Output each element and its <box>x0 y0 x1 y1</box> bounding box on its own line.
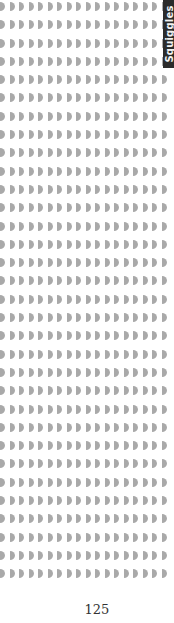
half-circle-icon <box>133 459 138 468</box>
half-circle-icon <box>10 39 15 48</box>
pattern-cell <box>27 533 37 543</box>
pattern-cell <box>17 203 27 213</box>
half-circle-icon <box>10 313 15 322</box>
half-circle-icon <box>124 295 129 304</box>
pattern-cell <box>27 459 37 469</box>
pattern-cell <box>74 130 84 140</box>
half-circle-icon <box>38 130 43 139</box>
half-circle-icon <box>162 167 167 176</box>
half-circle-icon <box>10 331 15 340</box>
pattern-cell <box>46 39 56 49</box>
pattern-cell <box>55 368 65 378</box>
half-circle-icon <box>143 258 148 267</box>
pattern-cell <box>84 331 94 341</box>
pattern-cell <box>55 185 65 195</box>
pattern-cell <box>27 240 37 250</box>
half-circle-icon <box>0 551 5 560</box>
half-circle-icon <box>162 185 167 194</box>
pattern-cell <box>84 57 94 67</box>
pattern-cell <box>131 258 141 268</box>
half-circle-icon <box>95 167 100 176</box>
half-circle-icon <box>38 93 43 102</box>
half-circle-icon <box>48 276 53 285</box>
half-circle-icon <box>0 496 5 505</box>
half-circle-icon <box>29 405 34 414</box>
pattern-cell <box>131 441 141 451</box>
pattern-cell <box>46 496 56 506</box>
half-circle-icon <box>162 313 167 322</box>
half-circle-icon <box>19 459 24 468</box>
half-circle-icon <box>124 386 129 395</box>
half-circle-icon <box>19 20 24 29</box>
half-circle-icon <box>86 240 91 249</box>
pattern-cell <box>0 39 8 49</box>
pattern-cell <box>122 20 132 30</box>
half-circle-icon <box>29 2 34 11</box>
half-circle-icon <box>10 368 15 377</box>
half-circle-icon <box>29 75 34 84</box>
pattern-cell <box>65 276 75 286</box>
pattern-cell <box>74 295 84 305</box>
half-circle-icon <box>114 313 119 322</box>
half-circle-icon <box>114 478 119 487</box>
half-circle-icon <box>57 441 62 450</box>
pattern-cell <box>122 222 132 232</box>
pattern-cell <box>65 39 75 49</box>
pattern-cell <box>122 368 132 378</box>
half-circle-icon <box>48 2 53 11</box>
half-circle-icon <box>114 551 119 560</box>
half-circle-icon <box>29 112 34 121</box>
pattern-cell <box>0 459 8 469</box>
pattern-cell <box>131 459 141 469</box>
pattern-cell <box>46 295 56 305</box>
half-circle-icon <box>95 533 100 542</box>
pattern-cell <box>55 386 65 396</box>
pattern-cell <box>65 148 75 158</box>
pattern-cell <box>93 2 103 12</box>
half-circle-icon <box>105 331 110 340</box>
pattern-cell <box>8 459 18 469</box>
pattern-cell <box>150 423 160 433</box>
half-circle-icon <box>48 478 53 487</box>
half-circle-icon <box>48 185 53 194</box>
pattern-cell <box>65 75 75 85</box>
pattern-cell <box>103 148 113 158</box>
pattern-cell <box>103 2 113 12</box>
pattern-cell <box>150 295 160 305</box>
pattern-cell <box>103 459 113 469</box>
half-circle-icon <box>95 405 100 414</box>
half-circle-icon <box>57 2 62 11</box>
pattern-row <box>0 203 174 221</box>
pattern-cell <box>112 57 122 67</box>
pattern-cell <box>141 551 151 561</box>
pattern-cell <box>74 533 84 543</box>
half-circle-icon <box>19 551 24 560</box>
half-circle-icon <box>57 20 62 29</box>
half-circle-icon <box>105 386 110 395</box>
pattern-cell <box>112 276 122 286</box>
pattern-cell <box>8 386 18 396</box>
half-circle-icon <box>133 130 138 139</box>
pattern-cell <box>0 423 8 433</box>
half-circle-icon <box>105 167 110 176</box>
half-circle-icon <box>67 405 72 414</box>
half-circle-icon <box>38 459 43 468</box>
pattern-cell <box>84 441 94 451</box>
half-circle-icon <box>162 203 167 212</box>
half-circle-icon <box>67 185 72 194</box>
pattern-cell <box>65 222 75 232</box>
half-circle-icon <box>19 2 24 11</box>
pattern-cell <box>122 423 132 433</box>
pattern-cell <box>84 276 94 286</box>
pattern-cell <box>55 276 65 286</box>
half-circle-icon <box>29 496 34 505</box>
half-circle-icon <box>124 514 129 523</box>
pattern-cell <box>74 222 84 232</box>
half-circle-icon <box>162 276 167 285</box>
pattern-cell <box>103 258 113 268</box>
half-circle-icon <box>105 423 110 432</box>
half-circle-icon <box>152 496 157 505</box>
pattern-cell <box>74 20 84 30</box>
pattern-cell <box>65 423 75 433</box>
half-circle-icon <box>48 496 53 505</box>
